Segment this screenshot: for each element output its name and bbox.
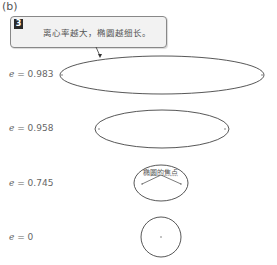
foci-label: 椭圆的焦点 bbox=[143, 167, 178, 177]
focus-point bbox=[61, 74, 63, 76]
eccentricity-label-3: e = 0.745 bbox=[9, 178, 53, 188]
focus-point bbox=[98, 128, 100, 130]
ellipse-e-0983 bbox=[60, 56, 264, 94]
focus-point bbox=[224, 128, 226, 130]
eccentricity-label-2: e = 0.958 bbox=[9, 123, 53, 133]
eccentricity-label-1: e = 0.983 bbox=[9, 69, 53, 79]
pointer-arrowhead-icon bbox=[98, 54, 102, 58]
ellipse-e-0958 bbox=[95, 110, 229, 148]
eccentricity-label-4: e = 0 bbox=[9, 232, 33, 242]
focus-point bbox=[261, 74, 263, 76]
center-point bbox=[160, 236, 162, 238]
